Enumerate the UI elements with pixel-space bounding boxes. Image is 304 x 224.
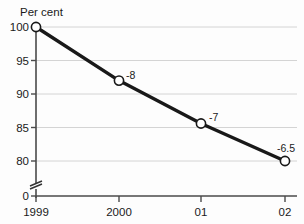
y-tick-label-85: 85 [16, 122, 29, 134]
data-point-1999[interactable] [31, 22, 40, 31]
x-tick-label-2000: 2000 [106, 206, 132, 218]
x-tick-label-01: 01 [195, 206, 208, 218]
data-point-2000[interactable] [114, 76, 123, 85]
chart-container: Per cent 100 95 90 85 80 0 [0, 0, 304, 224]
line-chart: Per cent 100 95 90 85 80 0 [0, 0, 304, 224]
y-tick-label-100: 100 [10, 21, 29, 33]
y-tick-label-95: 95 [16, 55, 29, 67]
x-tick-label-02: 02 [279, 206, 292, 218]
data-point-02[interactable] [280, 156, 289, 165]
chart-axis-title: Per cent [20, 6, 64, 18]
y-tick-label-80: 80 [16, 155, 29, 167]
x-tick-marks [36, 196, 285, 202]
data-point-01[interactable] [196, 119, 205, 128]
x-tick-label-1999: 1999 [23, 206, 49, 218]
y-tick-label-0: 0 [23, 190, 29, 202]
data-label-2000: -8 [126, 69, 135, 81]
data-label-02: -6.5 [277, 142, 295, 154]
gridlines [36, 27, 297, 161]
data-label-01: -7 [209, 111, 218, 123]
y-tick-label-90: 90 [16, 88, 29, 100]
